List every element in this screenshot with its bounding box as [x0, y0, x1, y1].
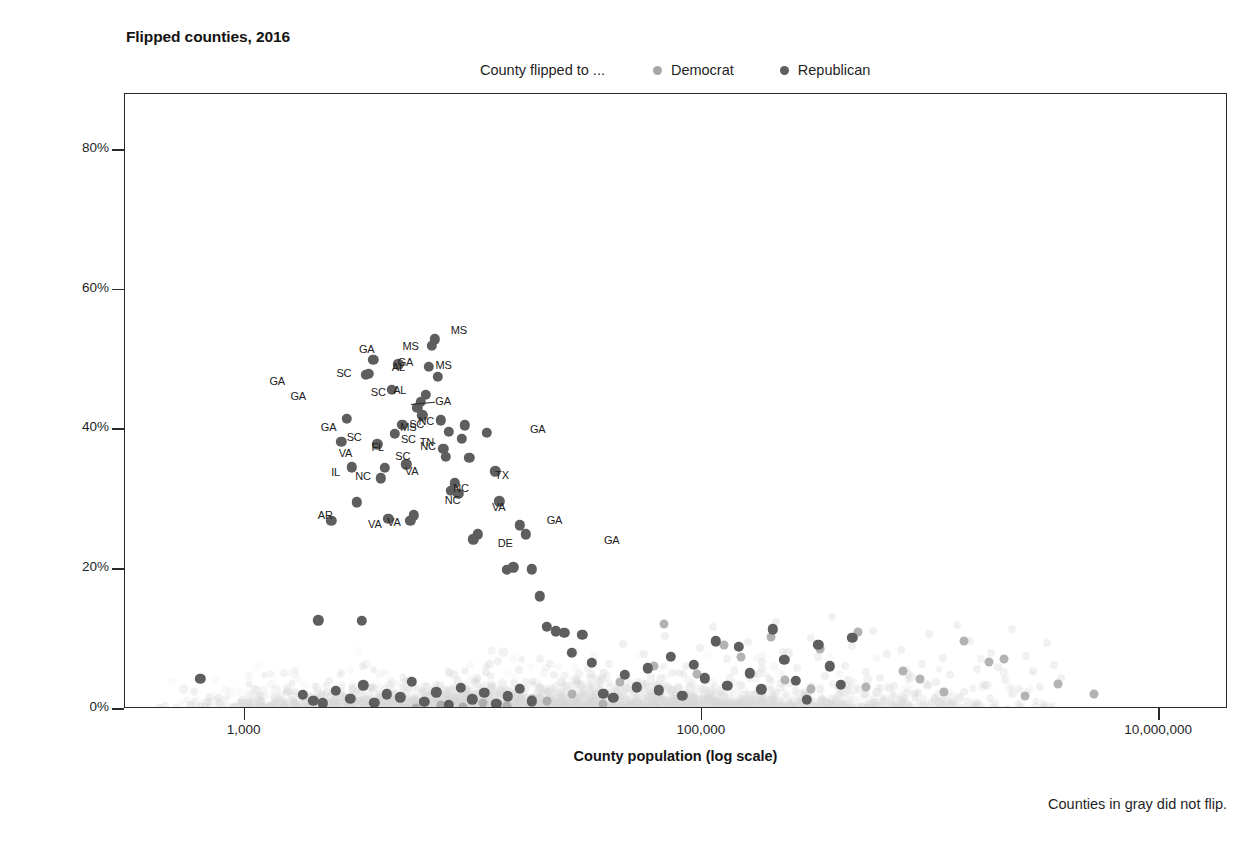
point-label: NC — [445, 494, 461, 506]
data-point-gray — [894, 704, 902, 708]
data-point-gray — [272, 685, 282, 695]
data-point-republican — [587, 658, 597, 668]
point-label: GA — [321, 421, 337, 433]
data-point-gray — [211, 675, 219, 683]
data-point-gray — [482, 662, 489, 669]
y-tick-label: 60% — [39, 280, 109, 295]
data-point-gray — [557, 692, 565, 700]
data-point-republican — [342, 414, 352, 424]
legend-swatch-democrat — [653, 66, 662, 75]
point-label: NC — [420, 440, 436, 452]
data-point-gray — [1040, 701, 1049, 708]
data-point-gray — [179, 685, 189, 695]
data-point-gray — [244, 704, 252, 708]
data-point-gray — [543, 664, 551, 672]
data-point-gray — [703, 652, 711, 660]
point-label: MS — [436, 359, 452, 371]
data-point-gray — [1007, 691, 1015, 699]
point-label: GA — [435, 395, 451, 407]
data-point-gray — [347, 667, 355, 675]
data-point-gray — [878, 694, 885, 701]
data-point-republican — [665, 651, 675, 661]
point-label: SC — [347, 431, 362, 443]
data-point-democrat — [861, 682, 870, 691]
point-label: GA — [530, 423, 546, 435]
data-point-gray — [709, 623, 717, 631]
data-point-gray — [518, 656, 525, 663]
data-point-gray — [348, 685, 356, 693]
data-point-republican — [559, 628, 569, 638]
x-tick-mark — [244, 708, 246, 720]
data-point-republican — [352, 497, 362, 507]
data-point-gray — [789, 696, 797, 704]
data-point-democrat — [806, 684, 815, 693]
data-point-gray — [473, 674, 481, 682]
y-tick-mark — [112, 428, 124, 430]
point-label: MS — [451, 324, 467, 336]
point-label: FL — [371, 441, 383, 453]
data-point-gray — [1030, 703, 1040, 708]
data-point-gray — [783, 691, 790, 698]
data-point-gray — [937, 705, 944, 708]
data-point-gray — [793, 664, 801, 672]
data-point-gray — [980, 681, 988, 689]
data-point-gray — [696, 644, 704, 652]
data-point-gray — [577, 691, 585, 699]
point-label: SC — [371, 386, 386, 398]
data-point-gray — [418, 687, 426, 695]
data-point-gray — [1036, 683, 1044, 691]
data-point-gray — [605, 660, 613, 668]
data-point-republican — [379, 463, 389, 473]
data-point-republican — [824, 661, 834, 671]
data-point-republican — [473, 529, 483, 539]
data-point-gray — [172, 704, 180, 708]
data-point-gray — [354, 646, 363, 655]
data-point-gray — [872, 653, 881, 662]
data-point-gray — [791, 703, 798, 708]
legend-item-democrat[interactable]: Democrat — [653, 62, 734, 78]
data-point-gray — [543, 688, 551, 696]
data-point-democrat — [1000, 654, 1009, 663]
data-point-gray — [1043, 639, 1051, 647]
data-point-gray — [668, 669, 676, 677]
data-point-gray — [527, 663, 535, 671]
point-label: VA — [492, 501, 505, 513]
x-tick-mark — [1158, 708, 1160, 720]
data-point-gray — [911, 690, 919, 698]
data-point-gray — [647, 673, 655, 681]
data-point-gray — [971, 702, 980, 708]
data-point-republican — [847, 633, 857, 643]
data-point-gray — [987, 649, 995, 657]
data-point-republican — [336, 437, 346, 447]
data-point-gray — [672, 701, 679, 708]
data-point-gray — [980, 703, 989, 708]
data-point-gray — [838, 704, 847, 708]
data-point-gray — [1022, 652, 1030, 660]
point-label: VA — [387, 516, 400, 528]
point-label: NC — [453, 482, 469, 494]
point-label: GA — [604, 534, 620, 546]
x-tick-label: 100,000 — [621, 722, 781, 737]
data-point-gray — [946, 671, 954, 679]
data-point-gray — [1008, 625, 1016, 633]
legend-caption: County flipped to ... — [480, 62, 605, 78]
data-point-gray — [876, 674, 884, 682]
data-point-gray — [338, 669, 346, 677]
data-point-gray — [161, 702, 169, 708]
x-tick-label: 1,000 — [164, 722, 324, 737]
plot-area[interactable]: GAGASCGAGAALALMSMSMSSCGANCTNGASCMSSCSCNC… — [124, 93, 1227, 708]
data-point-gray — [216, 699, 224, 707]
data-point-gray — [836, 670, 843, 677]
y-tick-label: 40% — [39, 419, 109, 434]
data-point-gray — [1006, 704, 1013, 708]
data-point-gray — [318, 690, 326, 698]
data-point-gray — [734, 705, 741, 708]
legend-item-republican[interactable]: Republican — [780, 62, 871, 78]
data-point-gray — [897, 646, 905, 654]
data-point-gray — [964, 696, 973, 705]
data-point-gray — [445, 669, 453, 677]
data-point-gray — [712, 705, 720, 708]
data-point-gray — [362, 660, 371, 669]
data-point-gray — [383, 669, 390, 676]
data-point-gray — [1015, 685, 1023, 693]
